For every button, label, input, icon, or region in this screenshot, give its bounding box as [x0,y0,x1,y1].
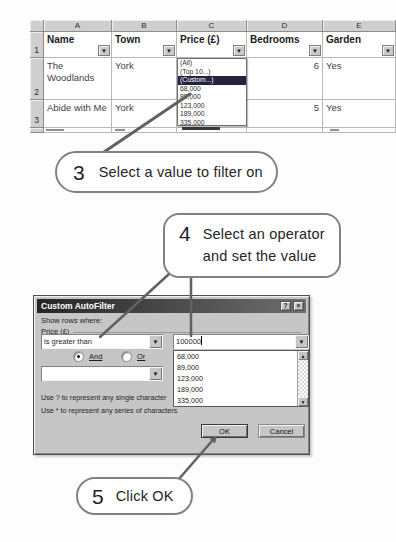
callout-step-4: 4 Select an operator and set the value [163,213,341,278]
scroll-up-icon[interactable]: ▲ [298,351,308,360]
value-option-123000[interactable]: 123,000 [174,373,308,384]
filter-option-custom[interactable]: (Custom...) [178,76,246,85]
and-label: And [89,352,102,361]
text-cursor [201,336,202,345]
row-header-2[interactable]: 2 [30,58,44,100]
chevron-down-icon[interactable]: ▼ [149,367,162,380]
header-label: Bedrooms [250,34,299,45]
radio-unselected-icon [122,352,131,361]
dialog-title: Custom AutoFilter [41,299,280,313]
second-operator-combobox[interactable]: ▼ [41,366,163,381]
filter-arrow-icon: ▼ [236,48,242,54]
column-header-b[interactable]: B [112,20,177,32]
callout-step-5: 5 Click OK [76,477,193,515]
wildcard-hint-series: Use * to represent any series of charact… [41,406,177,415]
header-label: Price (£) [180,34,219,45]
row-header-1[interactable]: 1 [30,32,44,58]
header-label: Town [115,34,140,45]
filter-arrow-icon: ▼ [312,48,318,54]
radio-selected-icon [74,352,83,361]
cancel-button[interactable]: Cancel [258,424,305,438]
cell-a2[interactable]: The Woodlands [44,58,112,100]
row-header-3[interactable]: 3 [30,100,44,128]
filter-option-123000[interactable]: 123,000 [178,102,246,111]
dialog-titlebar[interactable]: Custom AutoFilter ? × [37,299,306,313]
custom-autofilter-dialog: Custom AutoFilter ? × Show rows where: P… [33,295,310,455]
row4-clipped-text [46,129,64,131]
cell-c1[interactable]: Price (£) ▼ [177,32,247,58]
row-header-4-clipped [30,128,44,133]
step-text: Select a value to filter on [99,164,263,180]
wildcard-hint-single: Use ? to represent any single character [41,393,166,402]
and-radio[interactable]: And [74,352,102,361]
operator-value: is greater than [44,334,92,349]
cell-d3[interactable]: 5 [247,100,323,128]
chevron-down-icon[interactable]: ▼ [149,335,162,348]
cell-a3[interactable]: Abide with Me [44,100,112,128]
select-all-corner[interactable] [30,20,44,32]
divider [73,332,301,333]
or-label: Or [137,352,145,361]
operator-combobox[interactable]: is greater than ▼ [41,334,163,349]
filter-button-price[interactable]: ▼ [233,45,245,56]
value-text: 100000 [176,337,201,346]
callout-step-3: 3 Select a value to filter on [55,151,278,193]
filter-option-89000[interactable]: 89,000 [178,93,246,102]
cell-b1[interactable]: Town ▼ [112,32,177,58]
filter-button-name[interactable]: ▼ [98,45,110,56]
filter-option-189000[interactable]: 189,000 [178,110,246,119]
column-header-d[interactable]: D [247,20,323,32]
step-number: 5 [92,486,104,507]
filter-button-garden[interactable]: ▼ [382,45,394,56]
header-label: Garden [326,34,361,45]
autofilter-dropdown-list: (All) (Top 10...) (Custom...) 68,000 89,… [177,58,247,126]
cell-e1[interactable]: Garden ▼ [323,32,396,58]
filter-button-town[interactable]: ▼ [163,45,175,56]
row4-clipped-text [330,129,339,131]
filter-option-all[interactable]: (All) [178,59,246,68]
filter-arrow-icon: ▼ [385,48,391,54]
column-header-e[interactable]: E [323,20,396,32]
cell-e3[interactable]: Yes [323,100,396,128]
value-input[interactable]: 100000 ▼ [173,334,309,349]
or-radio[interactable]: Or [122,352,145,361]
cell-a1[interactable]: Name ▼ [44,32,112,58]
header-label: Name [47,34,74,45]
show-rows-label: Show rows where: [41,316,102,325]
help-button[interactable]: ? [280,301,291,311]
scroll-down-icon[interactable]: ▼ [298,397,308,406]
value-option-189000[interactable]: 189,000 [174,384,308,395]
filter-option-68000[interactable]: 68,000 [178,85,246,94]
column-header-c[interactable]: C [177,20,247,32]
value-dropdown-list: 68,000 89,000 123,000 189,000 335,000 ▲ … [173,350,309,407]
filter-option-top10[interactable]: (Top 10...) [178,68,246,77]
step-text: Select an operator and set the value [203,223,325,268]
close-button[interactable]: × [293,301,304,311]
scrollbar[interactable]: ▲ ▼ [297,351,308,406]
tutorial-page: A B C D E 1 Name ▼ Town ▼ Price (£) ▼ Be… [0,0,396,542]
chevron-down-icon[interactable]: ▼ [295,335,308,348]
cell-b3[interactable]: York [112,100,177,128]
step-text: Click OK [116,488,174,504]
value-option-89000[interactable]: 89,000 [174,362,308,373]
filter-option-335000[interactable]: 335,000 [178,119,246,128]
step-number: 3 [73,162,85,183]
step-number: 4 [179,223,191,244]
cell-d1[interactable]: Bedrooms ▼ [247,32,323,58]
filter-arrow-icon: ▼ [166,48,172,54]
filter-button-bedrooms[interactable]: ▼ [309,45,321,56]
cell-d2[interactable]: 6 [247,58,323,100]
cell-b2[interactable]: York [112,58,177,100]
value-option-335000[interactable]: 335,000 [174,395,308,406]
filter-arrow-icon: ▼ [101,48,107,54]
cell-e2[interactable]: Yes [323,58,396,100]
row4-clipped-text [115,129,125,131]
ok-button[interactable]: OK [201,424,248,438]
cell-d4-clipped [247,128,323,133]
column-header-a[interactable]: A [44,20,112,32]
value-option-68000[interactable]: 68,000 [174,351,308,362]
